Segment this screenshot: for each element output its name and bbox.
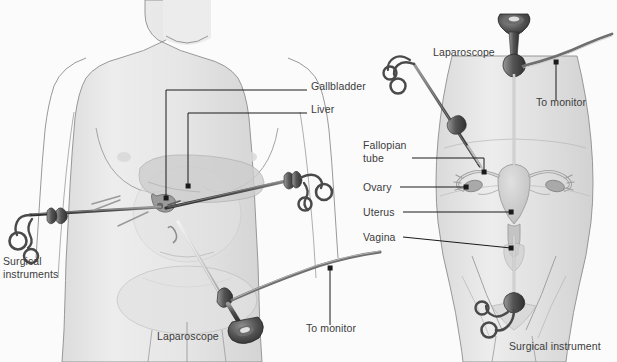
label-laparoscope-left: Laparoscope [157,330,219,343]
illustration-canvas: Gallbladder Liver Surgical instruments L… [0,0,617,362]
label-to-monitor-right: To monitor [536,96,586,109]
label-surgical-instruments: Surgical instruments [3,255,58,280]
right-panel-group [384,14,613,362]
label-liver: Liver [311,103,334,116]
label-gallbladder: Gallbladder [311,80,366,93]
illustration-artwork [0,0,617,362]
label-surgical-instrument: Surgical instrument [509,340,601,353]
label-to-monitor-left: To monitor [306,322,356,335]
label-vagina: Vagina [363,231,396,244]
label-uterus: Uterus [363,206,395,219]
label-laparoscope-right: Laparoscope [433,46,495,59]
left-panel-group [10,0,381,362]
label-ovary: Ovary [363,181,392,194]
label-fallopian-tube: Fallopian tube [363,139,407,164]
